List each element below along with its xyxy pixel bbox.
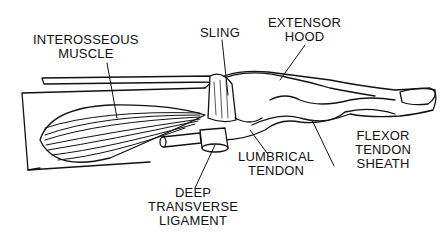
label-flexor-tendon-sheath: FLEXOR TENDON SHEATH	[355, 129, 411, 171]
label-line: TENDON	[355, 143, 411, 157]
label-extensor-hood: EXTENSOR HOOD	[268, 16, 341, 44]
label-line: HOOD	[268, 30, 341, 44]
label-line: TENDON	[238, 164, 314, 178]
tendon-stub	[162, 133, 201, 147]
fingernail	[400, 88, 435, 104]
label-deep-transverse-ligament: DEEP TRANSVERSE LIGAMENT	[148, 186, 238, 228]
label-line: LUMBRICAL	[238, 150, 314, 164]
label-line: DEEP	[148, 186, 238, 200]
label-line: SLING	[200, 26, 240, 40]
finger-anatomy-diagram: INTEROSSEOUS MUSCLE SLING EXTENSOR HOOD …	[0, 0, 445, 239]
label-line: TRANSVERSE	[148, 200, 238, 214]
bone-rod	[42, 76, 213, 84]
label-line: MUSCLE	[33, 47, 139, 61]
lumbrical-tendon	[235, 118, 262, 122]
label-line: INTEROSSEOUS	[33, 33, 139, 47]
label-line: EXTENSOR	[268, 16, 341, 30]
label-line: FLEXOR	[355, 129, 411, 143]
label-line: LIGAMENT	[148, 214, 238, 228]
flexor-sheath	[252, 109, 395, 125]
label-lumbrical-tendon: LUMBRICAL TENDON	[238, 150, 314, 178]
label-line: SHEATH	[355, 157, 411, 171]
label-sling: SLING	[200, 26, 240, 40]
label-interosseous-muscle: INTEROSSEOUS MUSCLE	[33, 33, 139, 61]
